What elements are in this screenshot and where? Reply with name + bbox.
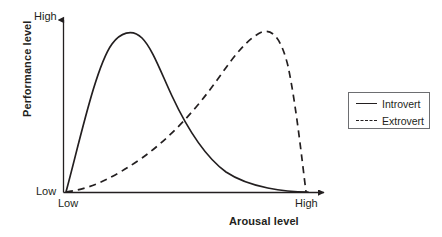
legend-swatch-dashed-line-icon (356, 120, 377, 121)
series-line-extrovert (66, 31, 306, 192)
chart-legend: Introvert Extrovert (348, 92, 430, 129)
y-axis-title: Performance level (22, 21, 33, 117)
x-axis-tick-low: Low (58, 198, 78, 209)
x-axis-title: Arousal level (229, 216, 299, 227)
legend-swatch-solid-line-icon (356, 103, 377, 104)
y-axis-tick-low: Low (36, 186, 56, 197)
legend-label-introvert: Introvert (382, 98, 421, 110)
x-axis-tick-high: High (295, 198, 318, 209)
legend-entry-extrovert: Extrovert (349, 112, 429, 129)
performance-arousal-chart: Performance level High Low Low High Arou… (0, 0, 442, 237)
y-axis-tick-high: High (34, 11, 57, 22)
series-line-introvert (66, 33, 308, 192)
legend-entry-introvert: Introvert (349, 95, 429, 112)
legend-label-extrovert: Extrovert (382, 115, 424, 127)
